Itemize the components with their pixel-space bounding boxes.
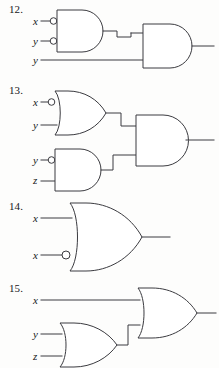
input-label-12-1: y: [32, 35, 38, 47]
input-label-13-1: y: [32, 119, 38, 131]
inversion-bubble-12-1: [50, 38, 57, 45]
input-label-15-1: y: [32, 328, 38, 340]
input-label-13-2: y: [32, 154, 38, 166]
input-label-14-1: x: [32, 249, 38, 261]
worksheet-page: 12. x y y 13.: [0, 0, 219, 368]
and-gate-12-1: [143, 24, 192, 68]
input-label-13-0: x: [32, 96, 38, 108]
interconnect-wire-12-0: [103, 31, 131, 37]
problem-14: 14. x x: [0, 192, 219, 280]
input-label-12-0: x: [32, 15, 38, 27]
circuit-diagram-14: x x: [0, 192, 219, 280]
and-gate-13-2: [136, 115, 189, 166]
input-label-15-0: x: [32, 294, 38, 306]
or-gate-13-0: [55, 91, 106, 135]
inversion-bubble-13-2: [48, 157, 55, 164]
inversion-bubble-14-1: [62, 251, 70, 259]
circuit-diagram-13: x y y z: [0, 82, 219, 192]
and-gate-13-1: [55, 149, 101, 191]
input-label-15-2: z: [32, 350, 38, 362]
inversion-bubble-13-0: [48, 99, 55, 106]
input-label-13-3: z: [32, 174, 38, 186]
problem-13: 13. x y y z: [0, 82, 219, 192]
problem-12: 12. x y y: [0, 0, 219, 82]
or-gate-15-1: [138, 288, 197, 338]
inversion-bubble-12-0: [50, 18, 57, 25]
or-gate-14-0: [70, 203, 142, 271]
input-label-12-2: y: [32, 54, 38, 66]
or-gate-15-0: [60, 323, 117, 367]
interconnect-wire-13-1: [101, 155, 136, 170]
problem-15: 15. x y z: [0, 280, 219, 368]
interconnect-wire-13-0: [106, 113, 136, 126]
circuit-diagram-15: x y z: [0, 280, 219, 368]
circuit-diagram-12: x y y: [0, 0, 219, 82]
interconnect-wire-15-0: [117, 325, 140, 345]
input-label-14-0: x: [32, 212, 38, 224]
and-gate-12-0: [57, 10, 103, 52]
